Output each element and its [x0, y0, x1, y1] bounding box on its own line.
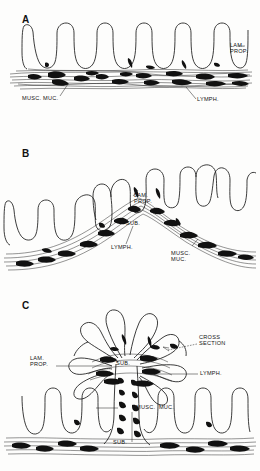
label-lymph-b: LYMPH. — [111, 244, 133, 250]
panel-b: B — [0, 140, 260, 292]
label-lam-prop-b: LAM. PROP. — [134, 192, 152, 205]
leader-lymph-a — [186, 87, 196, 99]
label-cross-section-c: CROSS SECTION — [199, 334, 226, 347]
panel-a-drawing — [0, 0, 260, 140]
leader-lymph-b — [126, 226, 133, 244]
panel-c: C — [0, 292, 260, 471]
label-musc-muc-b: MUSC. MUC. — [171, 250, 190, 263]
label-sub-upper-c: SUB. — [116, 360, 130, 366]
panel-a: A — [0, 0, 260, 140]
label-lymph-a: LYMPH. — [197, 96, 219, 102]
label-sub-lower-c: SUB. — [113, 439, 127, 445]
panel-c-drawing — [0, 292, 260, 471]
panel-b-drawing — [0, 140, 260, 292]
figure-root: A — [0, 0, 260, 471]
label-lam-prop-c: LAM. PROP. — [30, 355, 48, 368]
arrowhead-cross-section — [163, 347, 169, 351]
label-lymph-c: LYMPH. — [200, 370, 222, 376]
label-sub-b: SUB. — [126, 220, 140, 226]
label-musc-muc-c: MUSC. MUC. — [136, 404, 174, 410]
label-musc-muc-a: MUSC. MUC. — [22, 95, 58, 101]
label-lam-prop-a: LAM. PROP. — [230, 42, 248, 55]
